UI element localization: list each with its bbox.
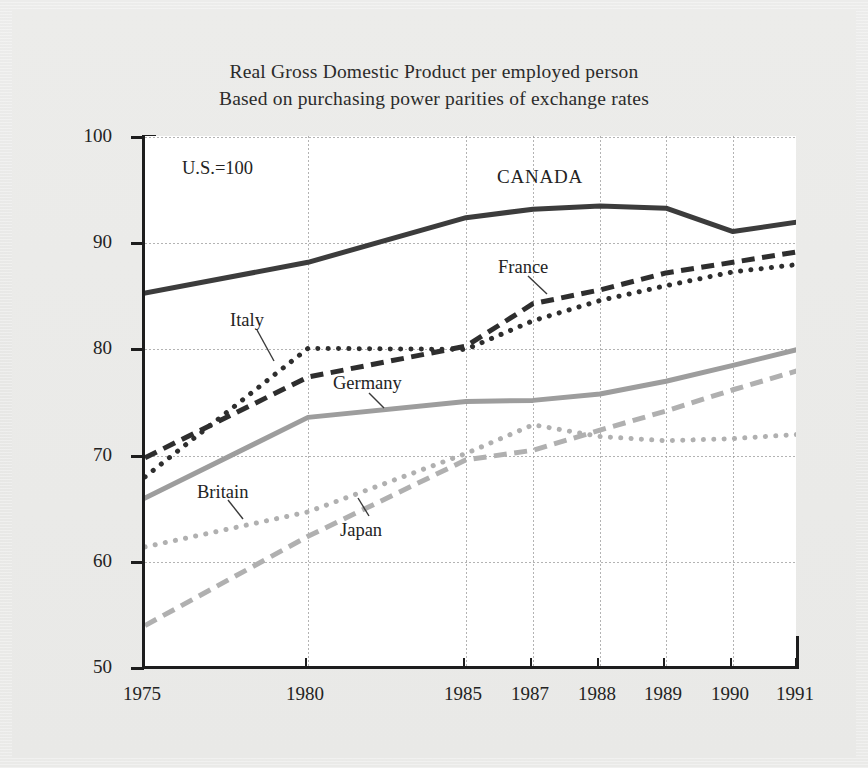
series-label-germany: Germany bbox=[333, 373, 402, 394]
y-tick-80 bbox=[131, 348, 144, 351]
chart-title: Real Gross Domestic Product per employed… bbox=[0, 58, 868, 85]
figure-page: Real Gross Domestic Product per employed… bbox=[0, 0, 868, 768]
y-tick-label-50: 50 bbox=[52, 656, 112, 678]
y-tick-label-100: 100 bbox=[52, 125, 112, 147]
x-tick-1988 bbox=[597, 658, 599, 669]
series-label-canada: CANADA bbox=[497, 166, 583, 188]
plot-inner bbox=[145, 136, 796, 666]
y-tick-label-60: 60 bbox=[52, 550, 112, 572]
plot-area bbox=[142, 136, 796, 669]
x-tick-label-1990: 1990 bbox=[695, 683, 765, 705]
y-tick-100 bbox=[131, 136, 144, 139]
x-tick-label-1991: 1991 bbox=[760, 683, 830, 705]
x-tick-1989 bbox=[663, 658, 665, 669]
x-tick-label-1989: 1989 bbox=[628, 683, 698, 705]
x-tick-1985 bbox=[463, 658, 465, 669]
y-tick-60 bbox=[131, 561, 144, 564]
series-line-france bbox=[145, 252, 796, 458]
y-tick-90 bbox=[131, 242, 144, 245]
series-label-france: France bbox=[498, 257, 548, 278]
series-label-japan: Japan bbox=[340, 520, 382, 541]
x-tick-label-1987: 1987 bbox=[495, 683, 565, 705]
x-tick-label-1988: 1988 bbox=[562, 683, 632, 705]
y-tick-label-80: 80 bbox=[52, 337, 112, 359]
x-tick-1991 bbox=[795, 658, 797, 669]
x-tick-label-1975: 1975 bbox=[107, 683, 177, 705]
chart-title-block: Real Gross Domestic Product per employed… bbox=[0, 58, 868, 112]
series-line-italy bbox=[145, 264, 796, 476]
x-tick-label-1980: 1980 bbox=[270, 683, 340, 705]
y-tick-label-90: 90 bbox=[52, 231, 112, 253]
y-tick-label-70: 70 bbox=[52, 444, 112, 466]
y-tick-70 bbox=[131, 455, 144, 458]
series-line-germany bbox=[145, 349, 796, 498]
chart-subtitle: Based on purchasing power parities of ex… bbox=[0, 85, 868, 112]
series-layer bbox=[145, 136, 796, 666]
x-tick-1990 bbox=[730, 658, 732, 669]
x-tick-label-1985: 1985 bbox=[428, 683, 498, 705]
us-base-note: U.S.=100 bbox=[182, 158, 253, 179]
x-tick-1980 bbox=[305, 658, 307, 669]
x-tick-1975 bbox=[142, 658, 144, 669]
series-label-britain: Britain bbox=[197, 482, 248, 503]
series-label-italy: Italy bbox=[230, 310, 264, 331]
x-tick-1987 bbox=[530, 658, 532, 669]
